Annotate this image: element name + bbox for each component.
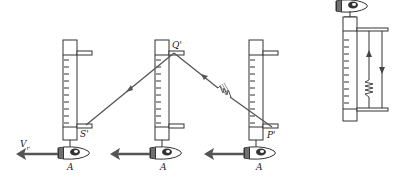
- direction-arrow-icon: [126, 85, 133, 92]
- light-clock-diagram: [0, 0, 394, 182]
- observer-label-3: A: [256, 163, 263, 172]
- mirror-label-q: Q': [172, 41, 182, 50]
- mirror-label-p: P': [267, 131, 276, 140]
- down-arrow-icon: [379, 67, 385, 74]
- up-arrow-icon: [366, 50, 372, 57]
- rocket-3: [244, 147, 276, 159]
- rocket-1: [58, 147, 90, 159]
- observer-label-1: A: [67, 163, 74, 172]
- light-path: [86, 53, 272, 127]
- velocity-label: Vr: [20, 140, 29, 151]
- velocity-arrow-2: [110, 148, 150, 160]
- velocity-arrow-3: [204, 148, 244, 160]
- clock-rest-frame: [343, 11, 388, 121]
- mirror-label-s: S': [80, 130, 89, 139]
- observer-label-2: A: [160, 163, 167, 172]
- rocket-rest: [336, 0, 368, 12]
- rocket-2: [150, 147, 182, 159]
